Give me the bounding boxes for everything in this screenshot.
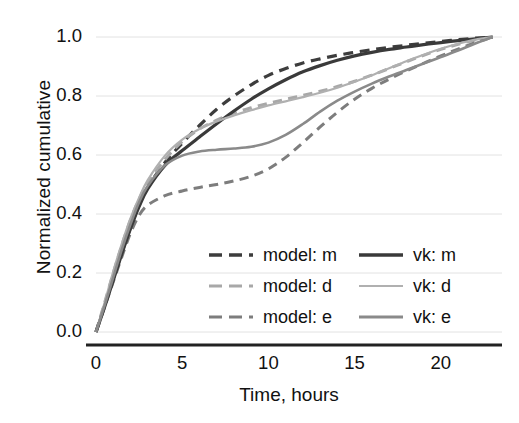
legend: model: mmodel: dmodel: evk: mvk: dvk: e xyxy=(208,240,498,332)
legend-swatch-icon xyxy=(358,249,404,261)
legend-swatch-icon xyxy=(208,311,254,323)
legend-item[interactable]: vk: d xyxy=(358,271,451,301)
legend-item[interactable]: model: e xyxy=(208,302,332,332)
legend-item-label: model: m xyxy=(263,245,337,266)
chart-figure: Normalized cumulative Time, hours 0.00.2… xyxy=(0,0,519,423)
legend-item-label: vk: m xyxy=(413,245,456,266)
plot-area xyxy=(0,0,519,423)
legend-swatch-icon xyxy=(358,280,404,292)
legend-item[interactable]: vk: e xyxy=(358,302,451,332)
legend-item-label: vk: d xyxy=(413,276,451,297)
legend-item[interactable]: model: d xyxy=(208,271,332,301)
legend-item-label: vk: e xyxy=(413,307,451,328)
legend-item[interactable]: model: m xyxy=(208,240,337,270)
legend-item[interactable]: vk: m xyxy=(358,240,456,270)
legend-swatch-icon xyxy=(208,280,254,292)
legend-swatch-icon xyxy=(208,249,254,261)
legend-item-label: model: d xyxy=(263,276,332,297)
legend-item-label: model: e xyxy=(263,307,332,328)
legend-swatch-icon xyxy=(358,311,404,323)
